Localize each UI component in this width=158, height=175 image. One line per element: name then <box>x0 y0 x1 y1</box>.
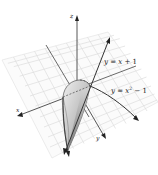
x-axis-label: x <box>16 106 20 113</box>
y-axis-label: y <box>95 134 100 142</box>
diagram-canvas: z x y y = x + 1 y = x2 − 1 <box>0 0 158 175</box>
parabola-equation-label: y = x2 − 1 <box>110 86 147 95</box>
z-axis-label: z <box>69 12 74 19</box>
line-equation-label: y = x + 1 <box>103 58 137 66</box>
